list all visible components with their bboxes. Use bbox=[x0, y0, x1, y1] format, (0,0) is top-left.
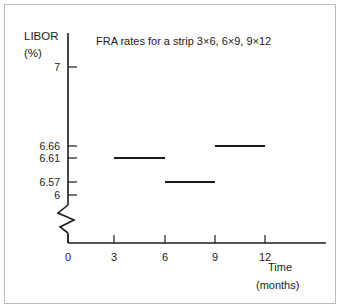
y-tick-label-6-57: 6.57 bbox=[22, 177, 60, 188]
y-tick-label-6: 6 bbox=[22, 190, 60, 201]
y-axis-title-line2: (%) bbox=[24, 48, 42, 60]
x-tick-label-9: 9 bbox=[200, 252, 230, 263]
figure-canvas: FRA rates for a strip 3×6, 6×9, 9×12 LIB… bbox=[0, 0, 340, 308]
chart-title: FRA rates for a strip 3×6, 6×9, 9×12 bbox=[96, 36, 271, 47]
x-axis-title-line1: Time bbox=[268, 262, 292, 273]
y-axis-title-line1: LIBOR bbox=[24, 31, 59, 43]
y-tick-label-7: 7 bbox=[22, 62, 60, 73]
x-tick-label-0: 0 bbox=[53, 252, 83, 263]
x-tick-label-3: 3 bbox=[99, 252, 129, 263]
y-tick-label-6-66: 6.66 bbox=[22, 141, 60, 152]
x-axis-title-line2: (months) bbox=[256, 280, 299, 291]
y-axis-break-zigzag bbox=[58, 205, 74, 233]
y-tick-label-6-61: 6.61 bbox=[22, 153, 60, 164]
x-tick-label-6: 6 bbox=[150, 252, 180, 263]
